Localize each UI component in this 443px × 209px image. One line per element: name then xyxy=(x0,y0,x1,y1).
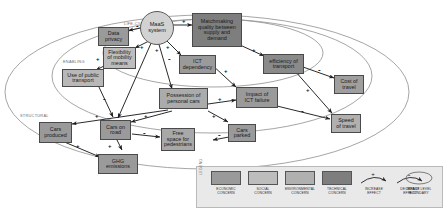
node-data-privacy-label: Dataprivacy xyxy=(105,31,122,42)
legend-item-impact-level-boundary: IMPACT LEVELBOUNDARY xyxy=(400,171,438,195)
edge-sign-maas-flexibility: + xyxy=(140,44,144,50)
edge-sign-maas-data-privacy: - xyxy=(136,22,139,30)
edge-sign-possession-cars-road: + xyxy=(144,113,148,119)
edge-sign-efficiency-speed: + xyxy=(306,87,310,93)
node-flexibility-mobility[interactable]: Flexibilityof mobilitymeans xyxy=(103,47,136,69)
legend-swatch-economic xyxy=(211,171,241,185)
legend-item-economic-concern: ECONOMICCONCERN xyxy=(207,171,245,195)
node-maas-system-label: MaaSsystem xyxy=(148,22,166,34)
legend-panel: LEGEND ECONOMICCONCERN SOCIALCONCERN ENV… xyxy=(196,166,443,208)
edge-sign-ict-impact: + xyxy=(224,68,228,74)
legend-swatch-social xyxy=(248,171,278,185)
legend-label-social: SOCIALCONCERN xyxy=(244,187,282,195)
node-matchmaking-quality[interactable]: Matchmakingquality betweensupply anddema… xyxy=(192,13,242,47)
node-free-space-pedestrians[interactable]: Freespace forpedestrians xyxy=(161,128,195,151)
edge-cars-parked-free-space xyxy=(213,137,229,140)
edge-sign-flexibility-public-transport: + xyxy=(96,56,100,62)
legend-item-environmental-concern: ENVIRONMENTALCONCERN xyxy=(281,171,319,195)
node-use-public-transport[interactable]: Use of publictransport xyxy=(62,69,104,87)
legend-label-increase: INCREASEEFFECT xyxy=(355,187,393,195)
edge-sign-efficiency-cost: - xyxy=(318,66,321,74)
edge-sign-impact-speed: - xyxy=(301,107,304,115)
node-ghg-emissions[interactable]: GHGemissions xyxy=(98,154,138,174)
edge-possession-impact xyxy=(208,100,236,104)
edge-sign-possession-cars-produced: + xyxy=(95,113,99,119)
node-cars-on-road-label: Cars onroad xyxy=(106,125,125,136)
node-possession-cars-label: Possession ofpersonal cars xyxy=(167,93,201,104)
edge-sign-public-transport-cars-road: - xyxy=(103,95,106,103)
edge-sign-cars-road-ghg: + xyxy=(108,143,112,149)
node-use-public-transport-label: Use of publictransport xyxy=(67,73,98,84)
legend-label-impact-boundary: IMPACT LEVELBOUNDARY xyxy=(400,187,438,195)
boundary-label-enabling: ENABLING xyxy=(63,59,85,64)
node-cars-produced[interactable]: Carsproduced xyxy=(39,122,72,143)
node-free-space-pedestrians-label: Freespace forpedestrians xyxy=(164,131,192,148)
node-ict-dependency[interactable]: ICTdependency xyxy=(179,55,216,74)
edge-sign-cars-parked-free-space: - xyxy=(218,131,221,139)
legend-label-environmental: ENVIRONMENTALCONCERN xyxy=(281,187,319,195)
edge-possession-cars-parked xyxy=(208,111,228,122)
edge-cars-road-ghg xyxy=(117,140,122,150)
node-cars-produced-label: Carsproduced xyxy=(44,127,67,138)
edge-cars-produced-ghg xyxy=(62,141,100,157)
legend-swatch-environmental xyxy=(285,171,315,185)
node-efficiency-transport-label: efficiency oftransport xyxy=(269,59,298,70)
node-cost-of-travel-label: Cost oftravel xyxy=(340,79,357,90)
edge-sign-possession-impact: + xyxy=(218,96,222,102)
edge-cars-road-free-space xyxy=(132,134,160,137)
edge-sign-maas-cars-road: + xyxy=(155,47,159,53)
legend-item-technical-concern: TECHNICALCONCERN xyxy=(318,171,356,195)
edge-sign-maas-matchmaking: + xyxy=(182,18,186,24)
impact-level-boundary-icon xyxy=(403,171,435,185)
node-ict-dependency-label: ICTdependency xyxy=(183,59,213,70)
node-possession-cars[interactable]: Possession ofpersonal cars xyxy=(159,88,208,109)
node-impact-ict-failure-label: Impact ofICT failure xyxy=(245,92,270,103)
diagram-canvas: LIFE-CYCLE ENABLING STRUCTURAL MaaSsyste… xyxy=(0,0,443,209)
node-flexibility-mobility-label: Flexibilityof mobilitymeans xyxy=(107,50,132,67)
node-cars-on-road[interactable]: Cars onroad xyxy=(100,120,131,140)
legend-swatch-technical xyxy=(322,171,352,185)
node-speed-of-travel-label: Speedof travel xyxy=(336,118,355,129)
legend-item-social-concern: SOCIALCONCERN xyxy=(244,171,282,195)
boundary-label-structural: STRUCTURAL xyxy=(20,113,49,118)
node-ghg-emissions-label: GHGemissions xyxy=(106,159,130,170)
increase-effect-icon: + xyxy=(358,171,390,185)
edge-sign-cars-produced-ghg: + xyxy=(76,143,80,149)
edge-sign-matchmaking-efficiency: + xyxy=(252,47,256,53)
legend-item-increase-effect: + INCREASEEFFECT xyxy=(355,171,393,195)
node-matchmaking-quality-label: Matchmakingquality betweensupply anddema… xyxy=(198,19,236,41)
node-efficiency-transport[interactable]: efficiency oftransport xyxy=(263,54,304,74)
legend-label-economic: ECONOMICCONCERN xyxy=(207,187,245,195)
node-cost-of-travel[interactable]: Cost oftravel xyxy=(334,75,364,94)
edge-sign-maas-ict: + xyxy=(166,44,170,50)
node-speed-of-travel[interactable]: Speedof travel xyxy=(331,114,361,133)
edge-sign-cars-road-free-space: - xyxy=(143,129,146,137)
node-data-privacy[interactable]: Dataprivacy xyxy=(98,27,129,46)
edge-sign-maas-possession: - xyxy=(168,55,171,63)
svg-text:+: + xyxy=(371,171,375,177)
legend-title: LEGEND xyxy=(199,151,203,175)
legend-label-technical: TECHNICALCONCERN xyxy=(318,187,356,195)
node-cars-parked[interactable]: Carsparked xyxy=(228,124,256,142)
node-maas-system[interactable]: MaaSsystem xyxy=(140,11,174,45)
edge-sign-possession-cars-parked: + xyxy=(212,113,216,119)
node-impact-ict-failure[interactable]: Impact ofICT failure xyxy=(236,87,278,108)
node-cars-parked-label: Carsparked xyxy=(234,128,251,139)
